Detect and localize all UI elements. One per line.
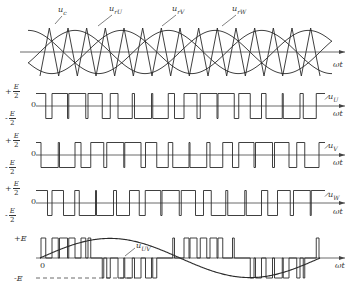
numerator: E (13, 132, 20, 141)
numerator: E (13, 83, 20, 92)
uUV-label: uUV (136, 242, 151, 252)
fraction: E2 (13, 180, 20, 197)
uUV-neg-level: -E (14, 275, 23, 283)
denominator: 2 (14, 189, 18, 197)
denominator: 2 (10, 119, 14, 127)
denominator: 2 (10, 216, 14, 224)
numerator: E (9, 110, 16, 119)
numerator: E (9, 159, 16, 168)
sign: - (5, 211, 8, 220)
ref-w-label-sub: rW (237, 8, 246, 15)
denominator: 2 (14, 92, 18, 100)
sign: + (5, 136, 12, 145)
uV-zero: 0 (31, 150, 36, 158)
ref-u-label-sub: rU (114, 8, 122, 15)
sign: + (5, 87, 12, 96)
uV-neg-level: -E2 (5, 159, 16, 176)
fraction: E2 (9, 110, 16, 127)
uW-pos-level: +E2 (5, 180, 20, 197)
uW-label: uW (328, 191, 339, 201)
fraction: E2 (13, 83, 20, 100)
uU-zero: 0 (31, 101, 36, 109)
axis-label-uV: ωt (333, 159, 343, 167)
denominator: 2 (14, 141, 18, 149)
carrier-label: uc (58, 6, 67, 16)
axis-label-uW: ωt (333, 208, 343, 216)
axis-label-uUV: ωt (335, 262, 345, 270)
uV-label: uV (328, 142, 338, 152)
carrier-label-sub: c (63, 9, 66, 16)
uW-zero: 0 (31, 198, 36, 206)
numerator: E (13, 180, 20, 189)
label-sub: V (333, 145, 337, 152)
axis-label-uU: ωt (333, 110, 343, 118)
denominator: 2 (10, 168, 14, 176)
sign: - (5, 114, 8, 123)
phase-voltage-plots (36, 94, 345, 216)
uU-pos-level: +E2 (5, 83, 20, 100)
line-voltage-plot (36, 238, 345, 278)
uUV-pos-level: +E (14, 235, 27, 243)
carrier-reference-plot (20, 15, 345, 76)
uW-neg-level: -E2 (5, 207, 16, 224)
numerator: E (9, 207, 16, 216)
label-sub: UV (141, 245, 150, 252)
fraction: E2 (9, 207, 16, 224)
label-sub: W (333, 194, 339, 201)
fraction: E2 (9, 159, 16, 176)
label-sub: U (333, 96, 338, 103)
uUV-zero: 0 (40, 262, 45, 270)
uV-pos-level: +E2 (5, 132, 20, 149)
uU-neg-level: -E2 (5, 110, 16, 127)
sign: + (5, 184, 12, 193)
uU-label: uU (328, 93, 338, 103)
ref-v-label: urV (172, 5, 184, 15)
fraction: E2 (13, 132, 20, 149)
ref-v-label-sub: rV (177, 8, 184, 15)
ref-u-label: urU (109, 5, 122, 15)
axis-label-top: ωt (333, 61, 343, 69)
sign: - (5, 163, 8, 172)
spwm-waveform-diagram (0, 0, 359, 297)
ref-w-label: urW (232, 5, 246, 15)
